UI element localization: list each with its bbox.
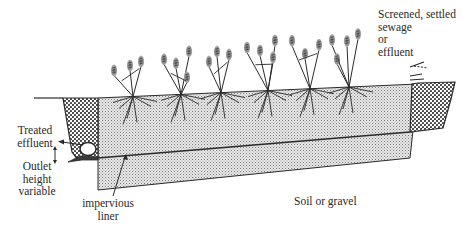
ground-label-line: Soil or gravel: [294, 195, 357, 208]
reed-stem: [347, 46, 349, 87]
reed-stem: [349, 39, 358, 87]
reed-stem: [260, 56, 268, 91]
reed-branch: [255, 64, 272, 65]
reed-stem: [114, 75, 133, 96]
liner-label: impervious liner: [78, 197, 138, 222]
reed-seed-head: [355, 28, 361, 40]
outlet-height-label-line: Outlet: [16, 160, 58, 173]
reed-seed-head: [127, 59, 133, 71]
reed-seed-head: [184, 71, 190, 83]
inlet-label-line: sewage: [378, 21, 456, 34]
inlet-label: Screened, settled sewage or effluent: [378, 8, 456, 58]
liner-label-line: impervious: [78, 197, 138, 210]
reed-seed-head: [214, 46, 220, 58]
reed-seed-head: [270, 52, 276, 64]
inlet-gravel-zone: [410, 82, 455, 132]
outlet-spout: [68, 156, 98, 162]
inlet-label-line: Screened, settled: [378, 8, 456, 21]
ground-label: Soil or gravel: [294, 195, 357, 208]
reed-seed-head: [257, 45, 263, 57]
reed-stem: [305, 59, 310, 89]
reed-seed-head: [289, 35, 295, 47]
outlet-height-label-line: variable: [16, 185, 58, 198]
reed-seed-head: [111, 64, 117, 76]
treatment-bed-media: [98, 84, 418, 190]
reed-stem: [332, 45, 349, 87]
reed-stem: [268, 63, 273, 91]
reed-seed-head: [344, 35, 350, 47]
outlet-height-label: Outlet height variable: [16, 160, 58, 198]
reed-branch: [339, 59, 340, 65]
reed-seed-head: [161, 53, 167, 65]
reed-branch: [214, 62, 228, 74]
reed-seed-head: [173, 57, 179, 69]
outlet-label-line: Treated: [14, 124, 56, 137]
reed-seed-head: [244, 42, 250, 54]
reed-seed-head: [272, 35, 278, 47]
reed-stem: [247, 53, 268, 91]
inlet-label-line: effluent: [378, 46, 456, 59]
inlet-pipe-icon: [410, 62, 428, 80]
reed-stem: [133, 66, 141, 96]
outlet-label: Treated effluent: [14, 124, 56, 149]
inlet-label-line: or: [378, 33, 456, 46]
reed-stem: [337, 64, 349, 87]
reed-seed-head: [206, 56, 212, 68]
liner-label-line: liner: [78, 210, 138, 223]
outlet-height-label-line: height: [16, 173, 58, 186]
reed-seed-head: [329, 34, 335, 46]
reed-seed-head: [316, 39, 322, 51]
reed-seed-head: [138, 55, 144, 67]
reed-seed-head: [186, 45, 192, 57]
reed-seed-head: [226, 49, 232, 61]
outlet-label-line: effluent: [14, 137, 56, 150]
